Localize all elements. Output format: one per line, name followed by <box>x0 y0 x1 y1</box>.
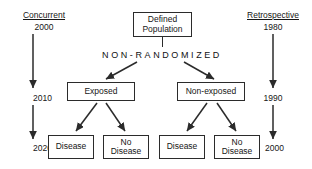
arrow-exposed-to-no-disease <box>106 103 125 131</box>
cohort-study-design-diagram: Concurrent 2000 2010 2020 Retrospective … <box>0 0 312 169</box>
arrow-non-exposed-to-no-disease <box>217 103 236 131</box>
arrow-banner-to-non-exposed <box>184 62 214 79</box>
arrow-exposed-to-disease <box>76 103 97 131</box>
arrow-banner-to-exposed <box>106 62 137 79</box>
diagram-arrows-layer <box>0 0 312 169</box>
arrow-non-exposed-to-disease <box>187 103 207 131</box>
